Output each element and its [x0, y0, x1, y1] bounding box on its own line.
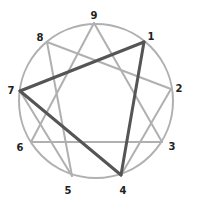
point-label-2: 2	[176, 83, 183, 94]
point-label-7: 7	[8, 85, 15, 96]
point-label-8: 8	[37, 32, 44, 43]
enneagram-diagram: 912345678	[0, 0, 202, 206]
point-label-3: 3	[169, 141, 176, 152]
point-label-5: 5	[65, 185, 72, 196]
point-label-6: 6	[17, 142, 24, 153]
point-label-4: 4	[120, 185, 127, 196]
point-label-1: 1	[148, 31, 155, 42]
highlighted-triangle-lines	[20, 42, 144, 175]
point-label-9: 9	[91, 10, 98, 21]
